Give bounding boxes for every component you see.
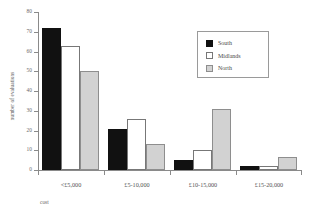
- y-tick-30: [34, 111, 39, 112]
- bar-north-2: [212, 109, 231, 170]
- y-tick-label-50: 50: [14, 68, 32, 73]
- bar-south-1: [108, 129, 127, 170]
- bar-south-0: [42, 28, 61, 170]
- x-tick-label-1: £5-10,000: [102, 181, 172, 188]
- y-tick-60: [34, 52, 39, 53]
- y-tick-20: [34, 131, 39, 132]
- x-tick-2: [170, 170, 171, 175]
- legend-swatch-midlands-icon: [206, 52, 213, 59]
- bar-south-2: [174, 160, 193, 170]
- chart-legend: South Midlands North: [197, 31, 269, 78]
- y-tick-label-10: 10: [14, 147, 32, 152]
- x-axis-title: cost: [40, 199, 49, 205]
- bar-north-1: [146, 144, 165, 170]
- y-tick-80: [34, 12, 39, 13]
- y-tick-label-0: 0: [14, 167, 32, 172]
- bar-midlands-3: [259, 166, 278, 170]
- bar-midlands-1: [127, 119, 146, 170]
- legend-item-midlands: Midlands: [206, 50, 268, 63]
- bar-midlands-2: [193, 150, 212, 170]
- x-tick-label-0: <£5,000: [36, 181, 106, 188]
- bar-chart-figure: number of evaluations 80 70 60 50 40 30 …: [0, 0, 309, 217]
- y-tick-label-80: 80: [14, 9, 32, 14]
- y-tick-70: [34, 32, 39, 33]
- legend-swatch-south-icon: [206, 40, 213, 47]
- y-tick-label-60: 60: [14, 49, 32, 54]
- y-tick-50: [34, 71, 39, 72]
- x-tick-3: [236, 170, 237, 175]
- y-tick-40: [34, 91, 39, 92]
- x-tick-1: [104, 170, 105, 175]
- x-tick-label-3: £15-20,000: [234, 181, 304, 188]
- x-tick-4: [301, 170, 302, 175]
- x-tick-label-2: £10-15,000: [168, 181, 238, 188]
- legend-label-south: South: [218, 40, 232, 46]
- legend-swatch-north-icon: [206, 65, 213, 72]
- y-tick-label-40: 40: [14, 88, 32, 93]
- bar-north-3: [278, 157, 297, 170]
- bar-south-3: [240, 166, 259, 170]
- legend-label-midlands: Midlands: [218, 53, 241, 59]
- x-tick-0: [38, 170, 39, 175]
- bar-north-0: [80, 71, 99, 170]
- legend-item-south: South: [206, 37, 268, 50]
- bar-midlands-0: [61, 46, 80, 170]
- legend-label-north: North: [218, 65, 232, 71]
- y-tick-10: [34, 150, 39, 151]
- legend-item-north: North: [206, 62, 268, 75]
- y-tick-label-20: 20: [14, 128, 32, 133]
- y-tick-label-70: 70: [14, 29, 32, 34]
- y-tick-label-30: 30: [14, 108, 32, 113]
